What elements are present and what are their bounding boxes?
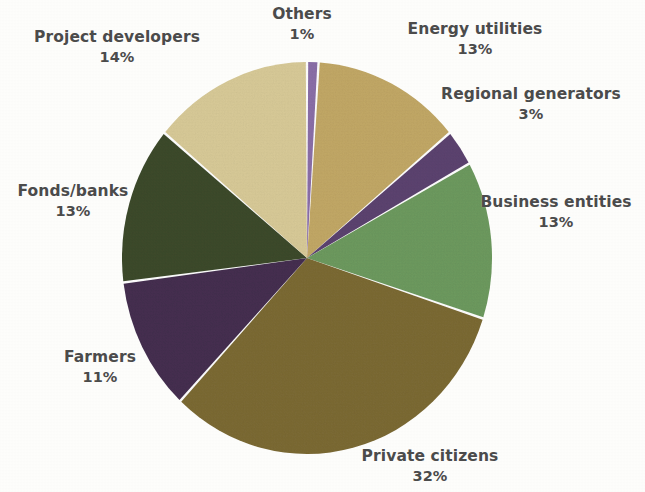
pie-label-farmers-value: 11% bbox=[25, 368, 175, 387]
pie-label-others-value: 1% bbox=[232, 25, 372, 44]
pie-label-energy-utilities-value: 13% bbox=[390, 40, 560, 59]
pie-label-private-citizens-name: Private citizens bbox=[330, 447, 530, 467]
pie-label-business-entities: Business entities 13% bbox=[470, 193, 642, 231]
pie-label-others: Others 1% bbox=[232, 5, 372, 43]
pie-label-fonds-banks-name: Fonds/banks bbox=[0, 182, 148, 202]
pie-label-others-name: Others bbox=[232, 5, 372, 25]
pie-label-project-developers: Project developers 14% bbox=[22, 28, 212, 66]
pie-label-energy-utilities-name: Energy utilities bbox=[390, 20, 560, 40]
pie-label-regional-generators-name: Regional generators bbox=[420, 85, 642, 105]
pie-label-business-entities-name: Business entities bbox=[470, 193, 642, 213]
pie-label-fonds-banks-value: 13% bbox=[0, 202, 148, 221]
pie-label-farmers: Farmers 11% bbox=[25, 348, 175, 386]
pie-chart-figure: Others 1% Energy utilities 13% Regional … bbox=[0, 0, 645, 492]
pie-chart-svg bbox=[0, 0, 645, 492]
pie-label-farmers-name: Farmers bbox=[25, 348, 175, 368]
pie-label-fonds-banks: Fonds/banks 13% bbox=[0, 182, 148, 220]
pie-label-regional-generators: Regional generators 3% bbox=[420, 85, 642, 123]
pie-label-project-developers-value: 14% bbox=[22, 48, 212, 67]
pie-label-private-citizens-value: 32% bbox=[330, 467, 530, 486]
pie-label-regional-generators-value: 3% bbox=[420, 105, 642, 124]
pie-label-project-developers-name: Project developers bbox=[22, 28, 212, 48]
pie-label-energy-utilities: Energy utilities 13% bbox=[390, 20, 560, 58]
pie-label-private-citizens: Private citizens 32% bbox=[330, 447, 530, 485]
pie-label-business-entities-value: 13% bbox=[470, 213, 642, 232]
